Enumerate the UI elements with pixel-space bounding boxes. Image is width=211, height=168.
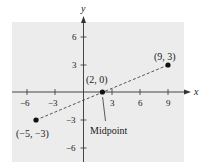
y-tick-label: 3 — [72, 60, 77, 70]
x-tick-label: −3 — [48, 98, 58, 108]
x-axis-label: x — [193, 86, 199, 97]
y-tick-label: −6 — [66, 143, 76, 153]
point-endpoint-2 — [165, 62, 170, 67]
midpoint-annotation: Midpoint — [90, 125, 127, 136]
midpoint-chart: x y −6 −3 3 6 9 6 3 −3 −6 (−5, −3) (2, 0… — [0, 0, 211, 168]
y-axis-arrow-icon — [81, 16, 86, 23]
point-label-midpoint: (2, 0) — [86, 74, 108, 86]
y-tick-label: −3 — [66, 115, 76, 125]
point-midpoint — [100, 89, 105, 94]
x-tick-label: 3 — [110, 98, 115, 108]
point-endpoint-1 — [33, 117, 38, 122]
y-axis-label: y — [80, 3, 86, 14]
x-tick-label: 9 — [166, 98, 171, 108]
x-axis-arrow-icon — [184, 90, 191, 95]
point-label-endpoint-2: (9, 3) — [154, 51, 176, 63]
y-tick-label: 6 — [72, 32, 77, 42]
x-tick-label: 6 — [138, 98, 143, 108]
x-tick-label: −6 — [20, 98, 30, 108]
point-label-endpoint-1: (−5, −3) — [16, 128, 49, 140]
